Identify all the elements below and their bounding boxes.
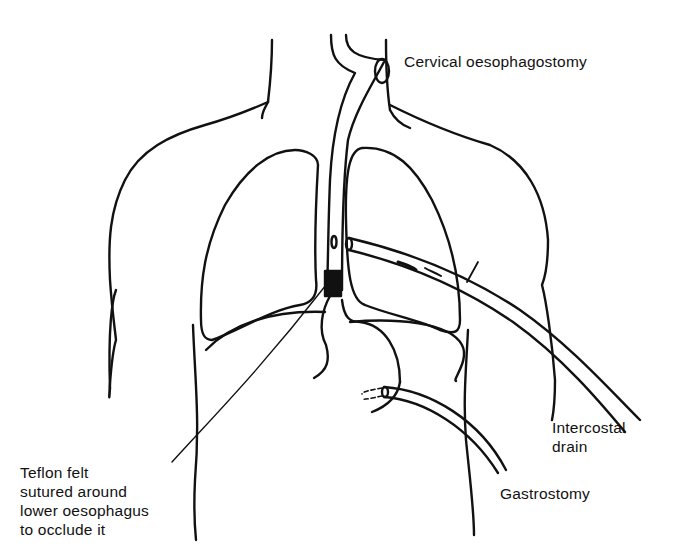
intercostal-puncture <box>467 262 478 282</box>
stomach-right-outline <box>342 300 400 382</box>
drain-tip <box>346 238 352 250</box>
right-diaphragm <box>350 321 464 381</box>
label-teflon-felt: Teflon felt sutured around lower oesopha… <box>20 463 149 539</box>
stomach-outline <box>314 296 330 378</box>
label-teflon-line-4: to occlude it <box>20 520 149 539</box>
right-shoulder-outline <box>390 105 555 420</box>
label-teflon-line-1: Teflon felt <box>20 463 149 482</box>
gastrostomy-tube-end <box>382 387 388 397</box>
label-intercostal-line-1: Intercostal <box>552 418 626 437</box>
oesophagus-right-wall <box>342 35 385 290</box>
anatomical-diagram: Cervical oesophagostomy Teflon felt sutu… <box>0 0 681 559</box>
torso-left-side <box>193 325 197 540</box>
intercostal-drain-top <box>349 238 640 420</box>
label-cervical-oesophagostomy: Cervical oesophagostomy <box>404 52 587 71</box>
label-teflon-line-2: sutured around <box>20 482 149 501</box>
label-gastrostomy-text: Gastrostomy <box>500 484 590 503</box>
gastrostomy-internal-dashed <box>362 388 382 399</box>
left-diaphragm <box>206 312 325 350</box>
left-shoulder-outline <box>109 102 268 397</box>
torso-right-side <box>465 330 474 535</box>
label-gastrostomy: Gastrostomy <box>500 484 590 503</box>
oesophagus-ring <box>332 236 337 248</box>
label-intercostal-line-2: drain <box>552 437 626 456</box>
label-teflon-line-3: lower oesophagus <box>20 501 149 520</box>
label-cervical-text: Cervical oesophagostomy <box>404 52 587 71</box>
teflon-felt <box>325 271 341 296</box>
right-lung-outline <box>346 148 460 332</box>
neck-left-outline <box>262 40 272 118</box>
label-intercostal-drain: Intercostal drain <box>552 418 626 456</box>
